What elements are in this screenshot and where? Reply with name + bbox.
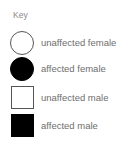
legend-item-affected-male: affected male	[10, 114, 128, 138]
legend-item-affected-female: affected female	[10, 57, 128, 81]
legend-label: affected male	[41, 120, 98, 132]
legend-item-unaffected-female: unaffected female	[10, 31, 128, 55]
legend-label: affected female	[41, 63, 106, 75]
legend-label: unaffected female	[41, 37, 116, 49]
circle-filled-icon	[10, 57, 34, 81]
key-title: Key	[13, 10, 28, 20]
square-outline-icon	[11, 86, 34, 109]
legend-label: unaffected male	[41, 92, 108, 104]
circle-outline-icon	[10, 31, 34, 55]
square-filled-icon	[11, 114, 34, 137]
legend-item-unaffected-male: unaffected male	[10, 86, 128, 110]
